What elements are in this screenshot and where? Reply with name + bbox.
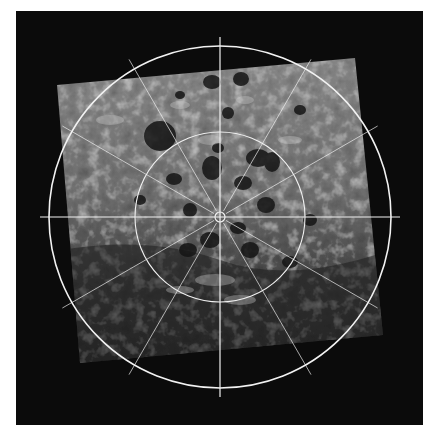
- polar-map: [0, 0, 435, 438]
